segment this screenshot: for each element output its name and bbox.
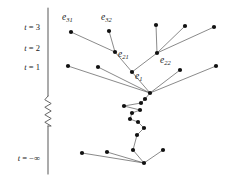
tree-edge	[157, 26, 185, 53]
tree-node	[154, 23, 158, 27]
tree-node	[183, 24, 187, 28]
tree-node	[128, 117, 132, 121]
tree-node	[66, 64, 70, 68]
tree-node	[69, 30, 73, 34]
tree-node	[107, 29, 111, 33]
tree-edge	[133, 150, 144, 163]
time-axis	[45, 8, 51, 174]
tree-node	[105, 150, 109, 154]
node-label-e21: e21	[118, 49, 129, 60]
node-label-e31: e31	[62, 12, 73, 23]
time-axis-tick-labels: t = 3t = 2t = 1t = −∞	[18, 22, 40, 163]
tree-edge	[150, 70, 180, 93]
tree-node	[161, 148, 165, 152]
axis-tick-label-tneginf: t = −∞	[18, 153, 40, 163]
tree-edge	[82, 153, 144, 163]
tree-edge	[157, 27, 214, 53]
tree-node	[122, 104, 126, 108]
tree-edge	[107, 152, 144, 163]
figure-root: t = 3t = 2t = 1t = −∞ e31e32e21e22e1	[0, 0, 226, 182]
tree-node	[142, 161, 146, 165]
tree-node	[130, 111, 134, 115]
tree-node	[148, 91, 152, 95]
tree-edge	[132, 53, 157, 72]
coalescent-tree-figure: t = 3t = 2t = 1t = −∞ e31e32e21e22e1	[0, 0, 226, 182]
tree-node	[143, 97, 147, 101]
tree-edge	[133, 135, 137, 150]
tree-node	[214, 64, 218, 68]
tree-edge	[156, 25, 157, 53]
axis-tick-label-t3: t = 3	[24, 22, 40, 32]
tree-edge	[124, 106, 140, 110]
tree-node	[136, 120, 140, 124]
tree-node	[142, 126, 146, 130]
tree-node	[138, 108, 142, 112]
tree-edges	[68, 25, 216, 163]
tree-node	[131, 148, 135, 152]
node-label-e1: e1	[135, 71, 142, 82]
tree-nodes	[66, 23, 218, 165]
tree-edge	[109, 31, 115, 52]
tree-node	[80, 151, 84, 155]
tree-node-labels: e31e32e21e22e1	[62, 12, 171, 82]
tree-edge	[144, 150, 163, 163]
tree-node	[113, 50, 117, 54]
tree-node	[135, 133, 139, 137]
tree-node	[155, 51, 159, 55]
time-axis-break-zigzag-icon	[45, 96, 51, 126]
tree-node	[178, 68, 182, 72]
tree-edge	[150, 66, 216, 93]
tree-node	[130, 70, 134, 74]
tree-edge	[71, 32, 115, 52]
node-label-e32: e32	[101, 12, 112, 23]
tree-node	[139, 101, 143, 105]
axis-tick-label-t1: t = 1	[24, 62, 40, 72]
node-label-e22: e22	[160, 55, 171, 66]
tree-edge	[124, 103, 141, 106]
tree-node	[212, 25, 216, 29]
axis-tick-label-t2: t = 2	[24, 43, 40, 53]
tree-node	[96, 65, 100, 69]
